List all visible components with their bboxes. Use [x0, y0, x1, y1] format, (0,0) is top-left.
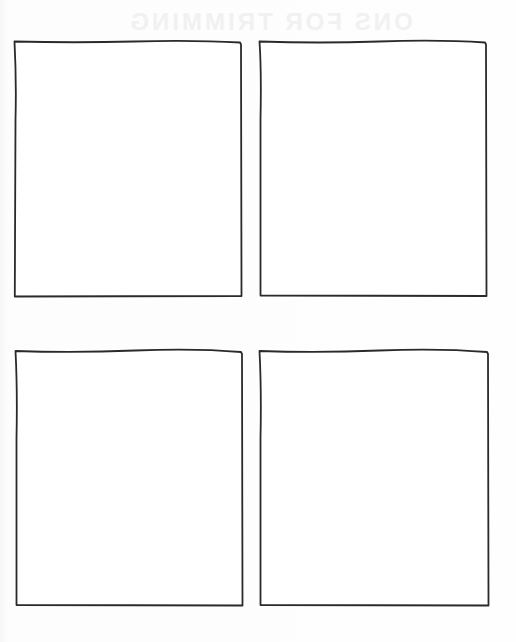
panel-content-area[interactable]	[263, 44, 483, 294]
panel-top-left[interactable]	[14, 40, 242, 298]
panel-content-area[interactable]	[263, 353, 485, 603]
panel-bottom-left[interactable]	[15, 349, 243, 607]
paper-page: ONS FOR TRIMMING	[0, 0, 516, 642]
bleed-through-text: ONS FOR TRIMMING	[50, 8, 490, 34]
panel-content-area[interactable]	[18, 44, 238, 294]
panel-content-area[interactable]	[19, 353, 239, 603]
panel-top-right[interactable]	[259, 40, 487, 298]
panel-bottom-right[interactable]	[259, 349, 489, 607]
